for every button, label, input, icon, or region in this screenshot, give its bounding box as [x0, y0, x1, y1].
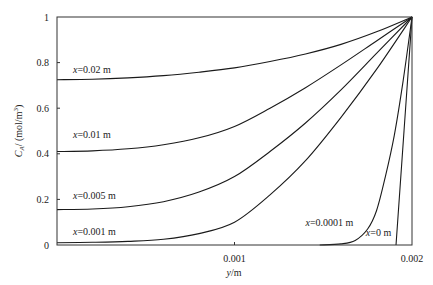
- curve-series-5: [396, 17, 412, 245]
- curve-label: x=0 m: [365, 227, 392, 238]
- y-tick-label: 0.6: [37, 103, 50, 114]
- x-tick-label: 0.002: [401, 253, 424, 264]
- y-axis-title-close: ): [13, 105, 25, 108]
- x-tick-label: 0.001: [223, 253, 246, 264]
- curve-label-value: =0.0001 m: [310, 217, 354, 228]
- y-tick-label: 0.4: [37, 148, 50, 159]
- y-axis-ticks: 00.20.40.60.81: [37, 12, 61, 251]
- y-axis-title: CA/ (mol/m3): [12, 105, 26, 158]
- y-tick-label: 1: [44, 12, 49, 23]
- curve-label-value: =0.001 m: [77, 226, 116, 237]
- curve-label: x=0.001 m: [72, 226, 116, 237]
- x-axis-title: y/m: [225, 267, 241, 278]
- y-tick-label: 0.8: [37, 57, 50, 68]
- curve-label: x=0.005 m: [72, 190, 116, 201]
- x-axis-title-unit: /m: [231, 267, 242, 278]
- y-tick-label: 0: [44, 240, 49, 251]
- curve-label-value: =0.01 m: [77, 129, 111, 140]
- curve-label: x=0.0001 m: [305, 217, 354, 228]
- curve-label-value: =0 m: [370, 227, 391, 238]
- y-tick-label: 0.2: [37, 194, 50, 205]
- concentration-profile-chart: x=0.02 mx=0.01 mx=0.005 mx=0.001 mx=0.00…: [0, 0, 433, 285]
- curve-label: x=0.02 m: [72, 64, 111, 75]
- curve-labels-group: x=0.02 mx=0.01 mx=0.005 mx=0.001 mx=0.00…: [72, 64, 391, 238]
- curve-label: x=0.01 m: [72, 129, 111, 140]
- y-axis-title-unit: / (mol/m: [13, 111, 25, 146]
- curve-label-value: =0.005 m: [77, 190, 116, 201]
- curve-series-2: [57, 17, 412, 210]
- curve-label-value: =0.02 m: [77, 64, 111, 75]
